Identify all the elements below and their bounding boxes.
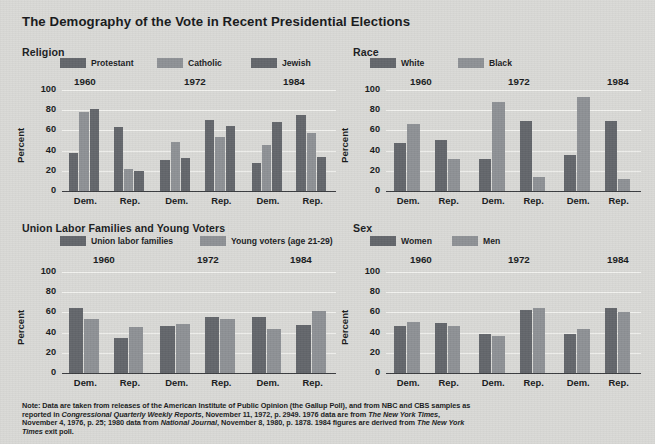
footnote-line-3c: , November 8, 1980, p. 1878. [217, 418, 313, 427]
y-tick-0: 0 [354, 185, 380, 195]
legend-swatch-icon [200, 236, 226, 246]
legend-item-union-young-0[interactable]: Union labor families [60, 236, 173, 246]
bar [215, 137, 224, 191]
party-label-union-young-1960-Dem: Dem. [63, 377, 108, 388]
bar [160, 160, 169, 191]
y-tick-0: 0 [30, 185, 56, 195]
bar [605, 121, 617, 191]
gridline-80 [386, 292, 641, 293]
party-label-race-1972-Dem: Dem. [473, 195, 514, 206]
legend-label: White [401, 58, 424, 68]
gridline-100 [62, 90, 336, 91]
bar [114, 338, 128, 373]
legend-item-sex-0[interactable]: Women [370, 236, 432, 246]
bar [492, 102, 504, 191]
plot-area-sex: 100806040200Dem.Rep.Dem.Rep.Dem.Rep. [386, 272, 641, 373]
bar [205, 120, 214, 191]
year-label-race-1972: 1972 [508, 76, 530, 87]
footnote-line-3-italic-2: National Journal [161, 418, 217, 427]
legend-item-religion-2[interactable]: Jewish [251, 58, 311, 68]
bar [79, 112, 88, 191]
footnote-line-4a: 1984 figures are derived from [315, 418, 417, 427]
gridline-80 [386, 110, 641, 111]
bar [577, 97, 589, 191]
party-label-sex-1972-Rep: Rep. [514, 377, 555, 388]
legend-swatch-icon [157, 58, 183, 68]
gridline-60 [62, 312, 336, 313]
y-tick-100: 100 [354, 266, 380, 276]
y-tick-60: 60 [354, 124, 380, 134]
y-tick-40: 40 [30, 145, 56, 155]
legend-item-union-young-1[interactable]: Young voters (age 21-29) [200, 236, 333, 246]
legend-item-sex-1[interactable]: Men [452, 236, 500, 246]
legend-item-religion-0[interactable]: Protestant [60, 58, 134, 68]
year-label-sex-1984: 1984 [607, 254, 629, 265]
party-label-race-1984-Dem: Dem. [558, 195, 599, 206]
y-tick-100: 100 [30, 84, 56, 94]
y-tick-0: 0 [30, 367, 56, 377]
legend-label: Black [489, 58, 512, 68]
gridline-40 [386, 333, 641, 334]
y-tick-20: 20 [354, 165, 380, 175]
party-label-sex-1984-Rep: Rep. [599, 377, 640, 388]
y-tick-80: 80 [30, 104, 56, 114]
party-label-union-young-1972-Dem: Dem. [154, 377, 199, 388]
bar [407, 322, 419, 374]
bar [479, 159, 491, 191]
bar [171, 142, 180, 191]
bar [69, 153, 78, 191]
party-label-religion-1972-Rep: Rep. [199, 195, 244, 206]
legend-label: Catholic [188, 58, 222, 68]
legend-swatch-icon [60, 236, 86, 246]
party-label-religion-1972-Dem: Dem. [154, 195, 199, 206]
footnote-line-4b: exit poll. [43, 427, 74, 436]
y-tick-40: 40 [354, 327, 380, 337]
party-label-religion-1984-Dem: Dem. [246, 195, 291, 206]
legend-item-race-0[interactable]: White [370, 58, 424, 68]
bar [564, 334, 576, 373]
bar [312, 311, 326, 373]
y-tick-80: 80 [30, 286, 56, 296]
axis-baseline [386, 191, 641, 192]
bar [296, 325, 310, 373]
plot-area-race: 100806040200Dem.Rep.Dem.Rep.Dem.Rep. [386, 90, 641, 191]
y-axis-label-religion: Percent [15, 127, 26, 162]
gridline-100 [62, 272, 336, 273]
bar [69, 308, 83, 373]
bar [605, 308, 617, 373]
bar [134, 171, 143, 191]
party-label-religion-1984-Rep: Rep. [290, 195, 335, 206]
y-tick-60: 60 [30, 124, 56, 134]
legend-swatch-icon [452, 236, 478, 246]
party-label-sex-1960-Dem: Dem. [388, 377, 429, 388]
year-label-religion-1984: 1984 [283, 76, 305, 87]
legend-item-race-1[interactable]: Black [458, 58, 512, 68]
y-tick-20: 20 [30, 347, 56, 357]
y-tick-0: 0 [354, 367, 380, 377]
year-label-race-1960: 1960 [410, 76, 432, 87]
legend-item-religion-1[interactable]: Catholic [157, 58, 222, 68]
gridline-100 [386, 272, 641, 273]
bar [492, 336, 504, 373]
year-label-union-young-1972: 1972 [197, 254, 219, 265]
bar [618, 179, 630, 191]
y-axis-label-race: Percent [339, 127, 350, 162]
legend-swatch-icon [370, 58, 396, 68]
plot-area-religion: 100806040200Dem.Rep.Dem.Rep.Dem.Rep. [62, 90, 336, 191]
party-label-union-young-1960-Rep: Rep. [108, 377, 153, 388]
party-label-union-young-1984-Rep: Rep. [290, 377, 335, 388]
bar [394, 326, 406, 373]
y-tick-80: 80 [354, 104, 380, 114]
bar [618, 312, 630, 373]
legend-swatch-icon [60, 58, 86, 68]
year-label-sex-1960: 1960 [410, 254, 432, 265]
y-tick-20: 20 [354, 347, 380, 357]
gridline-40 [62, 151, 336, 152]
gridline-40 [386, 151, 641, 152]
gridline-60 [62, 130, 336, 131]
bar [307, 133, 316, 191]
y-tick-80: 80 [354, 286, 380, 296]
gridline-20 [386, 353, 641, 354]
legend-label: Union labor families [91, 236, 173, 246]
bar [181, 158, 190, 191]
